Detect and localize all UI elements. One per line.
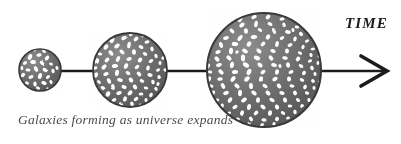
universe-stage-middle [91, 29, 167, 109]
universe-stage-early [19, 48, 61, 91]
figure-caption: Galaxies forming as universe expands [18, 113, 233, 127]
cosmic-expansion-figure: TIME Galaxies forming as universe expand… [0, 0, 401, 144]
time-axis-label: TIME [345, 16, 388, 31]
